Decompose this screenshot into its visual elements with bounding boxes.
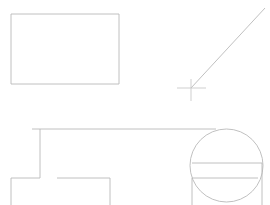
- cad-drawing-surface[interactable]: [0, 0, 270, 205]
- rectangle-shape[interactable]: [11, 14, 119, 84]
- diagonal-line-shape[interactable]: [191, 8, 265, 88]
- drawing-canvas[interactable]: [0, 0, 270, 205]
- circle-shape[interactable]: [190, 129, 263, 202]
